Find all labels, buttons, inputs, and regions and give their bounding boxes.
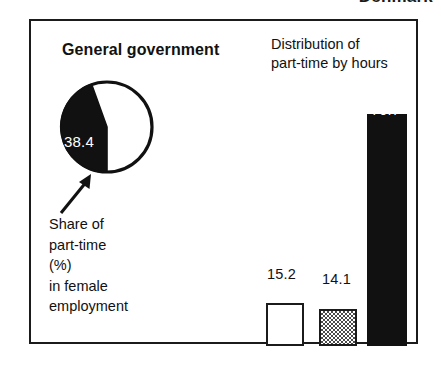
- bar-1: [266, 303, 304, 346]
- bar-2-value-label: 14.1: [322, 271, 351, 287]
- bar-1-value-label: 15.2: [267, 266, 296, 282]
- bar-3-value-label: 70.7: [371, 102, 400, 118]
- bar-3: [367, 114, 407, 346]
- chart-frame: General government Distribution of part-…: [29, 19, 418, 344]
- page-heading: Denmark: [0, 0, 441, 7]
- bar-chart: 15.2 14.1 70.7: [31, 21, 420, 346]
- bar-2: [319, 309, 357, 346]
